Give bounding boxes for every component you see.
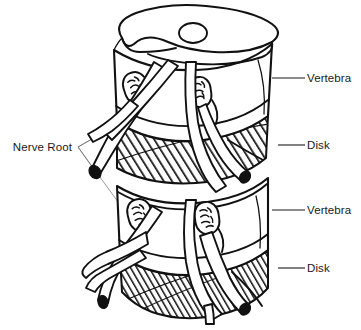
label-nerve-root: Nerve Root [13,141,73,153]
endplate-foramen [179,23,207,43]
spine-anatomy-figure: Vertebra Disk Vertebra Disk Nerve Root [0,0,361,330]
label-text-vertebra-upper: Vertebra [307,72,352,84]
nerve-root-tube [204,304,214,324]
label-text-vertebra-lower: Vertebra [307,204,352,216]
label-text-nerve-root: Nerve Root [13,141,73,153]
spine-illustration-canvas: Vertebra Disk Vertebra Disk Nerve Root [0,0,361,330]
label-text-disk-lower: Disk [307,262,330,274]
label-text-disk-upper: Disk [307,139,330,151]
